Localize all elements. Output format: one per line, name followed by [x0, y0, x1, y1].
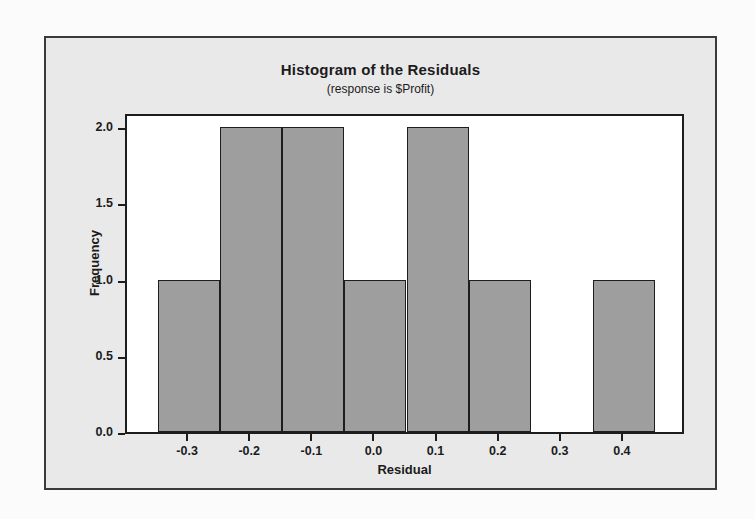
histogram-bar — [282, 127, 344, 432]
x-tick-label: -0.3 — [176, 444, 198, 458]
x-tick-label: -0.1 — [301, 444, 323, 458]
y-tick-label: 1.5 — [96, 196, 113, 210]
histogram-bars — [127, 116, 682, 432]
x-tick-mark — [621, 434, 623, 441]
plot-area — [125, 114, 684, 434]
histogram-bar — [344, 280, 406, 432]
histogram-bar — [407, 127, 469, 432]
x-tick-mark — [310, 434, 312, 441]
y-tick-mark — [118, 357, 125, 359]
x-tick-label: -0.2 — [238, 444, 260, 458]
figure-frame: Histogram of the Residuals (response is … — [44, 36, 717, 490]
x-tick-mark — [248, 434, 250, 441]
y-tick-mark — [118, 433, 125, 435]
y-tick-label: 1.0 — [96, 273, 113, 287]
chart-subtitle: (response is $Profit) — [46, 82, 715, 96]
y-tick-mark — [118, 204, 125, 206]
x-tick-mark — [497, 434, 499, 441]
histogram-bar — [593, 280, 655, 432]
x-tick-mark — [186, 434, 188, 441]
x-tick-mark — [559, 434, 561, 441]
histogram-bar — [469, 280, 531, 432]
y-tick-label: 0.5 — [96, 349, 113, 363]
chart-title: Histogram of the Residuals — [46, 61, 715, 78]
histogram-bar — [158, 280, 220, 432]
histogram-bar — [220, 127, 282, 432]
y-tick-label: 0.0 — [96, 425, 113, 439]
x-tick-mark — [372, 434, 374, 441]
x-tick-label: 0.1 — [427, 444, 444, 458]
x-axis-label: Residual — [125, 462, 684, 477]
x-tick-label: 0.2 — [489, 444, 506, 458]
y-tick-mark — [118, 128, 125, 130]
x-tick-label: 0.4 — [613, 444, 630, 458]
y-tick-label: 2.0 — [96, 120, 113, 134]
y-tick-mark — [118, 281, 125, 283]
x-tick-mark — [435, 434, 437, 441]
x-tick-label: 0.3 — [551, 444, 568, 458]
x-tick-label: 0.0 — [365, 444, 382, 458]
